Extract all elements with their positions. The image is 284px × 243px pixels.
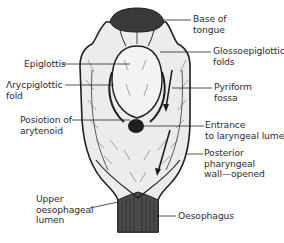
label-aryepiglottic-fold: Λrycpiglottic fold: [6, 80, 62, 101]
label-glossoepiglottic-folds: Glossoepiglottic folds: [213, 46, 284, 67]
anatomy-diagram: Base of tongue Glossoepiglottic folds Py…: [0, 0, 284, 243]
arytenoid-shape: [128, 119, 144, 133]
label-epiglottis: Epiglottis: [24, 59, 66, 70]
label-entrance-laryngeal-lumen: Entrance to laryngeal lumen: [205, 120, 284, 141]
label-upper-oesophageal-lumen: Upper oesophageal lumen: [36, 194, 94, 226]
label-oesophagus: Oesophagus: [178, 211, 234, 222]
base-of-tongue-shape: [110, 8, 164, 32]
label-position-of-arytenoid: Posiotion of arytenoid: [20, 115, 72, 136]
label-pyriform-fossa: Pyriform fossa: [214, 82, 252, 103]
label-posterior-pharyngeal-wall: Posterior pharyngeal wall—opened: [204, 148, 265, 180]
label-base-of-tongue: Base of tongue: [193, 14, 226, 35]
